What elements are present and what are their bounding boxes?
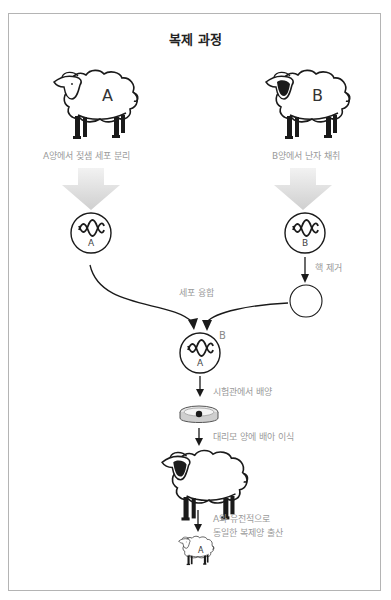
clone-letter: A xyxy=(198,546,204,555)
diagram-art: A B A B A B xyxy=(0,0,391,600)
sheep-b-letter: B xyxy=(312,86,323,105)
label-birth-line2: 동일한 복제양 출산 xyxy=(213,526,283,539)
sheep-a-letter: A xyxy=(102,86,113,105)
enucleated-egg-icon xyxy=(290,285,322,317)
label-culture: 시험관에서 배양 xyxy=(213,385,272,398)
surrogate-sheep-icon xyxy=(162,450,247,520)
svg-text:B: B xyxy=(302,238,308,248)
clone-lamb-icon xyxy=(179,536,214,565)
fused-cell-icon: A B xyxy=(180,330,226,373)
label-implant: 대리모 양에 배아 이식 xyxy=(213,430,294,443)
label-enucleation: 핵 제거 xyxy=(315,261,342,274)
cell-b-icon: B xyxy=(285,213,325,253)
label-birth-line1: A와 유전적으로 xyxy=(213,512,270,525)
svg-text:A: A xyxy=(88,238,95,248)
label-fusion: 세포 융합 xyxy=(179,286,214,299)
label-step-b: B양에서 난자 채취 xyxy=(272,149,340,162)
svg-text:A: A xyxy=(197,358,204,368)
sheep-b-icon: B xyxy=(266,70,350,139)
label-step-a: A양에서 젖샘 세포 분리 xyxy=(43,149,130,162)
sheep-a-icon: A xyxy=(54,70,138,139)
svg-text:B: B xyxy=(219,330,226,341)
cell-a-icon: A xyxy=(71,213,111,253)
big-arrow-b-icon xyxy=(274,168,332,210)
big-arrow-a-icon xyxy=(62,168,120,210)
petri-dish-icon xyxy=(180,406,218,423)
